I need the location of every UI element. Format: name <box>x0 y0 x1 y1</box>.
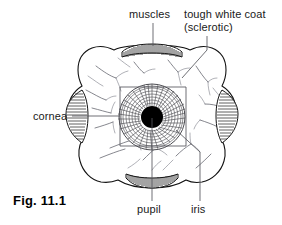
cornea-right-bulge <box>216 90 238 143</box>
figure-caption: Fig. 11.1 <box>13 193 66 208</box>
label-pupil: pupil <box>137 203 161 216</box>
eye-anatomy-figure: muscles tough white coat(sclerotic) corn… <box>0 0 282 225</box>
label-muscles: muscles <box>129 8 170 21</box>
cornea-left-body <box>66 90 88 143</box>
cornea-right-body <box>216 90 238 143</box>
label-iris: iris <box>191 203 205 216</box>
iris-group <box>118 84 185 150</box>
label-sclerotic-line1: tough white coat <box>184 8 266 20</box>
label-cornea: cornea <box>33 110 67 123</box>
label-sclerotic-line2: (sclerotic) <box>184 21 233 33</box>
label-tough-white-coat: tough white coat(sclerotic) <box>184 8 266 34</box>
cornea-left-bulge <box>66 90 88 143</box>
